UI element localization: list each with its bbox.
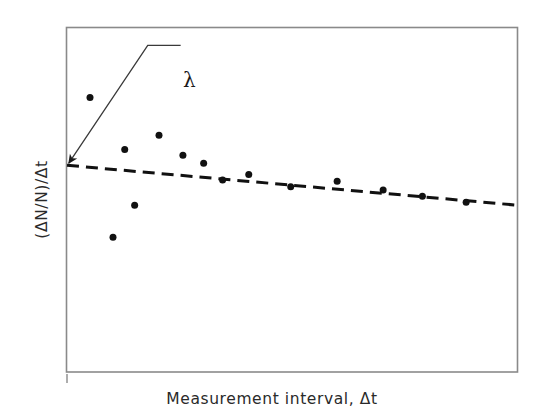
data-point bbox=[121, 146, 128, 153]
data-point bbox=[87, 94, 94, 101]
plot-canvas bbox=[0, 0, 544, 414]
data-point bbox=[219, 177, 226, 184]
figure-background bbox=[0, 0, 544, 414]
data-point bbox=[156, 132, 163, 139]
data-point bbox=[287, 183, 294, 190]
data-point bbox=[334, 178, 341, 185]
data-point bbox=[380, 187, 387, 194]
data-point bbox=[179, 152, 186, 159]
figure-root: λ Measurement interval, Δt (ΔN/N)/Δt bbox=[0, 0, 544, 414]
data-point bbox=[110, 234, 117, 241]
data-point bbox=[463, 199, 470, 206]
data-point bbox=[419, 193, 426, 200]
data-point bbox=[245, 171, 252, 178]
lambda-symbol-label: λ bbox=[183, 70, 196, 90]
x-axis-title: Measurement interval, Δt bbox=[0, 390, 544, 408]
data-point bbox=[200, 160, 207, 167]
data-point bbox=[131, 202, 138, 209]
y-axis-title: (ΔN/N)/Δt bbox=[30, 27, 54, 372]
